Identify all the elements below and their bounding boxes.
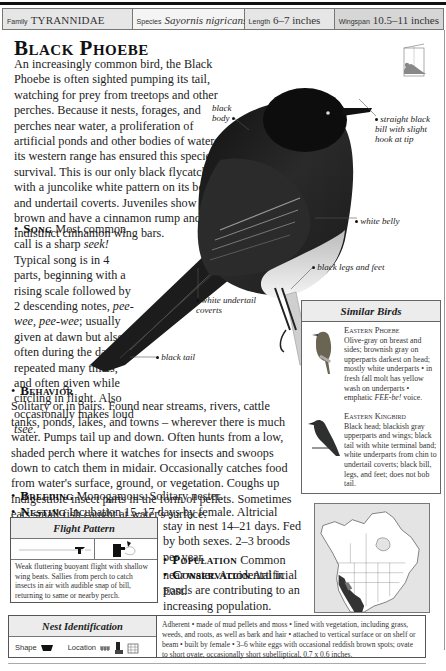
range-map: [314, 503, 430, 613]
population-heading: Population: [172, 552, 237, 567]
similar-bird-name: Eastern Phoebe: [344, 326, 439, 336]
top-rule: [0, 2, 446, 5]
species-cell: Species Sayornis nigricans: [133, 9, 245, 29]
pointer-dot-icon: [156, 356, 159, 359]
flight-pattern-heading: Flight Pattern: [11, 518, 157, 539]
length-value: 6–7 inches: [273, 14, 320, 26]
family-label: Family: [7, 18, 28, 25]
eastern-phoebe-thumbnail: [308, 326, 340, 376]
location-label: Location: [68, 643, 96, 652]
similar-bird-item: Eastern Phoebe Olive-gray on breast and …: [302, 322, 440, 408]
annotation-text: body: [212, 113, 230, 123]
annotation-text: white belly: [360, 216, 399, 226]
family-cell: Family TYRANNIDAE: [3, 9, 133, 29]
conservation-heading: Conservation: [172, 567, 250, 582]
similar-bird-description: Eastern Phoebe Olive-gray on breast and …: [344, 326, 439, 403]
breeding-section: • Breeding Monogamous. Solitary nester.: [11, 488, 301, 504]
sally-flight-icon: [95, 539, 157, 560]
flight-pattern-diagrams: [11, 539, 157, 560]
nest-description: Adherent • made of mud pellets and moss …: [157, 616, 425, 657]
species-header-bar: Family TYRANNIDAE Species Sayornis nigri…: [2, 8, 444, 30]
annotation-text: coverts: [196, 305, 256, 315]
pointer-dot-icon: [196, 299, 199, 302]
pointer-dot-icon: [355, 220, 358, 223]
family-value: TYRANNIDAE: [31, 14, 105, 26]
annotation-white-belly: white belly: [355, 216, 400, 226]
pointer-dot-icon: [375, 118, 378, 121]
annotation-text: black tail: [161, 352, 195, 362]
similar-bird-item: Eastern Kingbird Black head; blackish gr…: [302, 408, 440, 494]
species-value: Sayornis nigricans: [165, 14, 248, 26]
annotation-tail: black tail: [156, 352, 195, 362]
length-label: Length: [249, 18, 270, 25]
nest-shape-location-row: Shape Location: [9, 637, 156, 658]
leader-line: [130, 355, 156, 359]
bullet-icon: •: [11, 384, 15, 398]
bullet-icon: •: [11, 489, 15, 503]
shape-label: Shape: [15, 643, 37, 652]
shrub-icon: [99, 643, 111, 653]
nest-identification-heading: Nest Identification: [9, 616, 156, 637]
annotation-legs: black legs and feet: [312, 262, 384, 272]
similar-bird-text: voice.: [401, 393, 422, 402]
similar-bird-description: Eastern Kingbird Black head; blackish gr…: [344, 412, 439, 489]
similar-birds-heading: Similar Birds: [302, 301, 440, 322]
nest-identification-box: Nest Identification Shape Location: [8, 615, 426, 658]
wingspan-cell: Wingspan 10.5–11 inches: [335, 9, 443, 29]
leader-line: [315, 216, 357, 220]
breeding-text: Monogamous. Solitary nester.: [76, 489, 222, 503]
eastern-kingbird-thumbnail: [308, 412, 340, 462]
leader-line: [290, 265, 316, 291]
behavior-heading: Behavior: [20, 383, 73, 398]
cup-nest-icon: [40, 643, 54, 653]
flight-pattern-description: Weak fluttering buoyant flight with shal…: [11, 560, 157, 602]
similar-bird-text: Black head; blackish gray upperparts and…: [344, 422, 437, 489]
nest-identification-left: Nest Identification Shape Location: [9, 616, 157, 657]
annotation-text: bill with slight: [375, 124, 430, 134]
wingspan-label: Wingspan: [339, 18, 370, 25]
species-label: Species: [137, 18, 162, 25]
right-rule: [444, 30, 445, 650]
straight-flight-icon: [11, 539, 95, 560]
similar-birds-box: Similar Birds Eastern Phoebe Olive-gray …: [301, 300, 441, 494]
bridge-icon: [127, 642, 139, 654]
bullet-icon: •: [163, 568, 167, 582]
bottom-rule: [8, 663, 426, 664]
leader-line: [358, 98, 380, 118]
leader-line: [196, 268, 200, 298]
field-guide-page: Family TYRANNIDAE Species Sayornis nigri…: [0, 0, 446, 671]
annotation-bill: straight black bill with slight hook at …: [375, 114, 430, 144]
bullet-icon: •: [14, 222, 18, 236]
flight-pattern-box: Flight Pattern Weak fluttering buoyant f…: [10, 517, 158, 603]
sally-flight-diagram: [95, 539, 157, 559]
breeding-heading: Breeding: [20, 488, 73, 503]
building-icon: [114, 641, 124, 655]
annotation-text: white undertail: [201, 295, 256, 305]
similar-bird-voice: FEE-be!: [375, 393, 402, 402]
wingspan-value: 10.5–11 inches: [373, 14, 439, 26]
annotation-text: black: [212, 103, 235, 113]
annotation-text: black legs and feet: [317, 262, 384, 272]
field-guide-bird-icon: [400, 42, 430, 78]
length-cell: Length 6–7 inches: [245, 9, 335, 29]
bullet-icon: •: [163, 553, 167, 567]
leader-line: [232, 116, 252, 132]
straight-flight-diagram: [11, 539, 95, 559]
annotation-text: hook at tip: [375, 134, 430, 144]
annotation-undertail: white undertail coverts: [196, 295, 256, 315]
conservation-section: • Conservation Artificial ponds are cont…: [163, 567, 305, 614]
similar-bird-name: Eastern Kingbird: [344, 412, 439, 422]
annotation-text: straight black: [380, 114, 430, 124]
song-heading: Song: [23, 221, 52, 236]
